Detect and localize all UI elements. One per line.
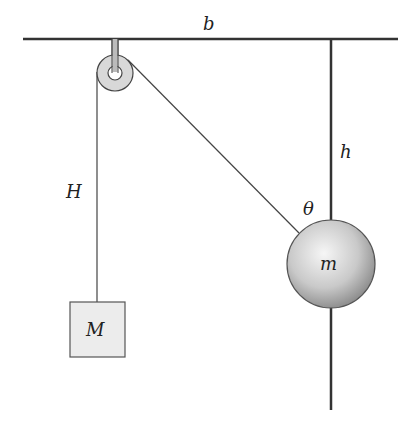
label-M: M [85, 319, 105, 340]
label-h: h [340, 141, 352, 162]
label-H: H [65, 181, 82, 202]
label-theta: θ [303, 198, 314, 219]
string-diagonal [128, 60, 299, 233]
pulley-diagram: b h H M m θ [0, 0, 419, 429]
label-b: b [203, 13, 215, 34]
label-m: m [320, 253, 337, 274]
